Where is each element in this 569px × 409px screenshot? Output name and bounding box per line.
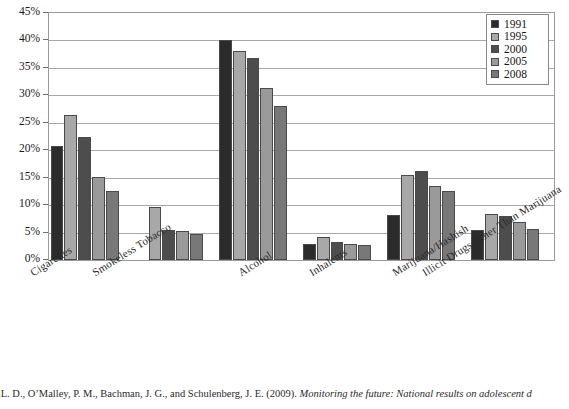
bar xyxy=(344,244,357,260)
y-axis-tick-label: 35% xyxy=(0,60,40,72)
legend-label: 1991 xyxy=(504,19,527,31)
y-axis-tick-label: 45% xyxy=(0,5,40,17)
legend-swatch xyxy=(491,58,499,66)
bar xyxy=(190,234,203,260)
legend-label: 2008 xyxy=(504,69,527,81)
bar xyxy=(358,245,371,260)
bar-group xyxy=(135,13,204,260)
bar xyxy=(527,229,540,260)
bar xyxy=(513,222,526,260)
legend-label: 1995 xyxy=(504,31,527,43)
y-axis: 45%40%35%30%25%20%15%10%5%0% xyxy=(0,0,44,273)
y-axis-tick-label: 40% xyxy=(0,32,40,44)
bar xyxy=(471,230,484,260)
legend-item: 2008 xyxy=(491,68,544,81)
caption-text-italic: Monitoring the future: National results … xyxy=(300,388,532,399)
legend-swatch xyxy=(491,45,499,53)
y-axis-tick-label: 20% xyxy=(0,142,40,154)
bar xyxy=(485,214,498,260)
bar-group xyxy=(387,13,456,260)
bar-group xyxy=(51,13,120,260)
plot-area xyxy=(48,12,555,261)
bar xyxy=(78,137,91,260)
drug-use-bar-chart: 45%40%35%30%25%20%15%10%5%0% CigarettesS… xyxy=(0,0,569,409)
y-axis-tick-label: 15% xyxy=(0,170,40,182)
bar-group xyxy=(219,13,288,260)
y-axis-tick-label: 30% xyxy=(0,87,40,99)
legend-item: 1995 xyxy=(491,31,544,44)
legend-label: 2000 xyxy=(504,44,527,56)
bar xyxy=(149,207,162,260)
bar xyxy=(429,186,442,260)
y-axis-tick-label: 5% xyxy=(0,225,40,237)
bar xyxy=(415,171,428,260)
bar xyxy=(92,177,105,260)
bar xyxy=(317,237,330,260)
bar xyxy=(274,106,287,260)
bar xyxy=(260,88,273,260)
bar xyxy=(247,58,260,260)
legend-item: 1991 xyxy=(491,18,544,31)
source-caption: ton, L. D., O’Malley, P. M., Bachman, J.… xyxy=(0,388,569,399)
y-axis-tick-label: 10% xyxy=(0,197,40,209)
y-axis-tick-label: 0% xyxy=(0,252,40,264)
bar xyxy=(401,175,414,260)
bar-group xyxy=(303,13,372,260)
legend-swatch xyxy=(491,33,499,41)
legend-swatch xyxy=(491,70,499,78)
legend-swatch xyxy=(491,20,499,28)
y-axis-tick-label: 25% xyxy=(0,115,40,127)
chart-legend: 19911995200020052008 xyxy=(486,14,549,85)
bar xyxy=(106,191,119,260)
bar xyxy=(499,216,512,260)
caption-text-plain: ton, L. D., O’Malley, P. M., Bachman, J.… xyxy=(0,388,300,399)
bars-layer xyxy=(49,13,554,260)
bar xyxy=(387,215,400,260)
bar xyxy=(233,51,246,260)
bar xyxy=(64,115,77,260)
bar xyxy=(303,244,316,260)
bar xyxy=(219,40,232,260)
legend-item: 2000 xyxy=(491,43,544,56)
bar xyxy=(442,191,455,260)
bar xyxy=(331,242,344,260)
bar xyxy=(51,146,64,260)
legend-label: 2005 xyxy=(504,56,527,68)
bar xyxy=(162,230,175,260)
legend-item: 2005 xyxy=(491,56,544,69)
bar xyxy=(176,231,189,260)
